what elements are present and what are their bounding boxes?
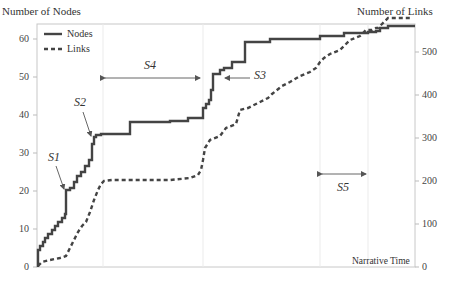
left-tick-marks (33, 39, 37, 267)
chart: Number of Nodes Number of Links 0 10 20 … (0, 0, 452, 285)
grid (103, 24, 368, 267)
legend: Nodes Links (44, 28, 93, 54)
right-tick: 400 (422, 89, 437, 100)
right-axis-ticks: 0 100 200 300 400 500 (422, 46, 437, 272)
annotation-s1: S1 (48, 150, 60, 164)
right-tick-marks (415, 52, 419, 267)
left-tick: 40 (19, 109, 29, 120)
left-tick: 10 (19, 223, 29, 234)
right-tick: 200 (422, 175, 437, 186)
annotation-s2: S2 (74, 95, 86, 109)
left-tick: 0 (24, 261, 29, 272)
annotation-s3: S3 (254, 68, 266, 82)
left-tick: 20 (19, 185, 29, 196)
nodes-series-line (38, 26, 415, 267)
right-tick: 100 (422, 218, 437, 229)
right-tick: 0 (422, 261, 427, 272)
right-axis-title: Number of Links (357, 5, 433, 17)
x-axis-title: Narrative Time (352, 256, 410, 266)
annotation-s1-arrow (56, 166, 64, 189)
legend-nodes-label: Nodes (67, 28, 93, 39)
legend-links-label: Links (67, 43, 90, 54)
left-axis-title: Number of Nodes (2, 5, 81, 17)
left-axis-ticks: 0 10 20 30 40 50 60 (19, 33, 29, 272)
annotation-s4: S4 (144, 58, 156, 72)
right-tick: 500 (422, 46, 437, 57)
left-tick: 30 (19, 147, 29, 158)
plot-frame (37, 24, 415, 267)
left-tick: 50 (19, 71, 29, 82)
left-tick: 60 (19, 33, 29, 44)
right-tick: 300 (422, 132, 437, 143)
annotation-s2-arrow (83, 112, 91, 136)
annotation-s5: S5 (337, 180, 349, 194)
